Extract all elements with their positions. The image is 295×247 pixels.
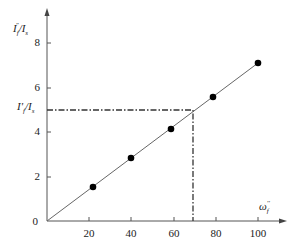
data-point bbox=[210, 94, 217, 101]
x-tick-label-60: 60 bbox=[169, 228, 180, 239]
x-axis-title: ωf'' bbox=[259, 200, 270, 215]
y-tick-label-8: 8 bbox=[26, 37, 40, 48]
x-axis-arrow-icon bbox=[279, 219, 287, 224]
fit-line bbox=[47, 63, 258, 221]
y-tick-label-6: 6 bbox=[26, 82, 40, 93]
x-tick-label-80: 80 bbox=[211, 228, 222, 239]
y-tick-label-2: 2 bbox=[26, 171, 40, 182]
y-tick-label-4: 4 bbox=[26, 126, 40, 137]
chart-canvas bbox=[0, 0, 295, 247]
y-axis-arrow-icon bbox=[45, 8, 50, 16]
guide-label: I'f/Is bbox=[17, 101, 34, 115]
x-tick-label-40: 40 bbox=[126, 228, 137, 239]
data-point bbox=[168, 126, 175, 133]
x-tick-label-20: 20 bbox=[84, 228, 95, 239]
data-point bbox=[90, 184, 97, 191]
data-point bbox=[128, 155, 135, 162]
x-tick-label-100: 100 bbox=[250, 228, 267, 239]
data-point bbox=[255, 60, 262, 67]
origin-label: 0 bbox=[24, 216, 38, 227]
y-axis-title: If''/Is bbox=[13, 22, 28, 37]
x-ticks bbox=[89, 217, 258, 221]
